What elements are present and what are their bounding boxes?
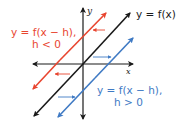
parent-function-label: y = f(x) [136, 8, 176, 20]
shift-right-label-line2: h > 0 [114, 96, 143, 108]
shift-left-label-line2: h < 0 [32, 38, 61, 50]
shift-left-label-line1: y = f(x − h), [11, 26, 76, 38]
x-axis-label: x [126, 67, 131, 76]
shift-right-label-line1: y = f(x − h), [97, 84, 162, 96]
y-axis-label: y [87, 6, 92, 16]
